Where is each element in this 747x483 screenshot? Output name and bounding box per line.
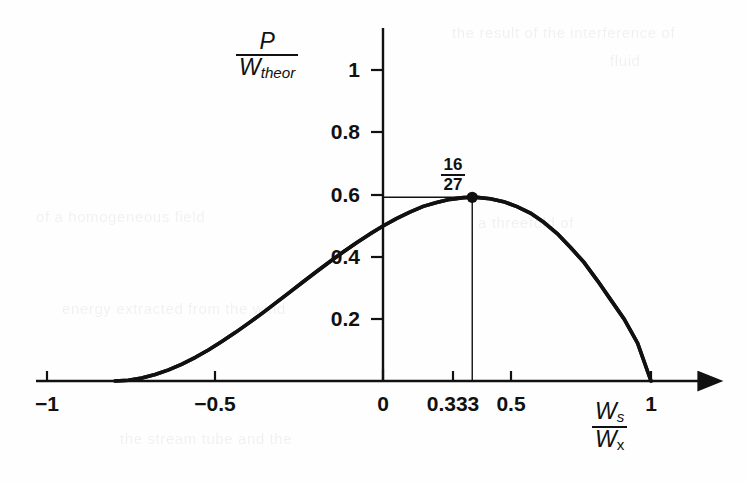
- x-axis-label-denominator-sub: x: [617, 436, 625, 453]
- x-axis-label-denominator-base: W: [595, 426, 617, 452]
- y-axis-label-denominator-base: W: [239, 54, 261, 80]
- x-tick-label-1: 1: [631, 393, 671, 414]
- y-axis-label-denominator-sub: theor: [261, 65, 296, 82]
- x-axis-label-numerator-base: W: [595, 398, 617, 424]
- x-tick-label-neg1: −1: [17, 393, 77, 414]
- chart-canvas: the result of the interference of fluid …: [0, 0, 747, 483]
- y-tick-label-0.4: 0.4: [290, 246, 360, 267]
- x-axis-label: Ws Wx: [592, 400, 627, 452]
- x-tick-label-0.333: 0.333: [415, 393, 491, 414]
- y-axis-label-denominator: Wtheor: [236, 54, 298, 81]
- x-tick-label-neg0.5: −0.5: [175, 393, 255, 414]
- x-axis-label-denominator: Wx: [592, 426, 627, 453]
- y-tick-label-0.8: 0.8: [290, 121, 360, 142]
- x-axis-label-numerator-sub: s: [617, 408, 625, 425]
- y-axis-label: P Wtheor: [236, 30, 298, 81]
- x-tick-label-0.5: 0.5: [484, 393, 538, 414]
- x-tick-label-0: 0: [363, 393, 403, 414]
- y-tick-label-0.6: 0.6: [290, 184, 360, 205]
- betz-limit-denominator: 27: [441, 174, 466, 193]
- y-tick-label-0.2: 0.2: [290, 308, 360, 329]
- betz-limit-numerator: 16: [441, 156, 466, 173]
- y-tick-label-1: 1: [300, 59, 360, 80]
- y-axis-label-numerator: P: [236, 30, 298, 53]
- betz-limit-annotation: 16 27: [382, 156, 524, 194]
- y-axis-ticks: [371, 70, 383, 319]
- x-axis-label-numerator: Ws: [592, 400, 627, 425]
